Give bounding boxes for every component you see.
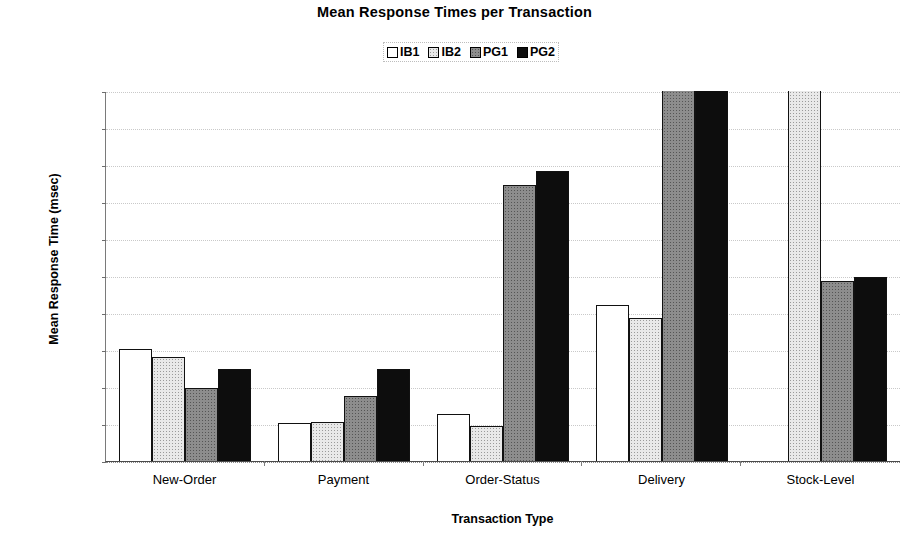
- bar-pg1[interactable]: [662, 91, 695, 461]
- bar-group: [106, 92, 265, 461]
- legend-swatch-icon: [428, 47, 439, 58]
- y-axis-tick-mark: [102, 462, 106, 463]
- x-axis-category-label: Stock-Level: [741, 472, 900, 487]
- bar-pg1[interactable]: [503, 185, 536, 461]
- x-axis-category-labels: New-OrderPaymentOrder-StatusDeliveryStoc…: [105, 472, 900, 487]
- bar-ib2[interactable]: [470, 426, 503, 461]
- legend-entry-ib1[interactable]: IB1: [387, 46, 419, 59]
- x-axis-tick-mark: [581, 461, 582, 466]
- bar-ib2[interactable]: [629, 318, 662, 461]
- bar-pg2[interactable]: [377, 369, 410, 461]
- legend-swatch-icon: [517, 47, 528, 58]
- chart-legend: IB1IB2PG1PG2: [383, 42, 559, 62]
- bar-pg2[interactable]: [218, 369, 251, 462]
- bar-ib2[interactable]: [311, 422, 344, 461]
- legend-entry-pg2[interactable]: PG2: [517, 46, 555, 59]
- x-axis-tick-mark: [264, 461, 265, 466]
- legend-label: PG1: [483, 46, 508, 59]
- plot-area: 10009008007006005004003002001000: [105, 92, 900, 462]
- bar-group: [424, 92, 583, 461]
- legend-entry-pg1[interactable]: PG1: [470, 46, 508, 59]
- y-axis-title: Mean Response Time (msec): [47, 109, 61, 409]
- bar-ib2[interactable]: [788, 91, 821, 461]
- bar-group: [741, 92, 900, 461]
- x-axis-tick-mark: [740, 461, 741, 466]
- bar-pg1[interactable]: [185, 388, 218, 461]
- bar-ib1[interactable]: [278, 423, 311, 461]
- x-axis-category-label: New-Order: [105, 472, 264, 487]
- bar-pg2[interactable]: [695, 91, 728, 461]
- legend-swatch-icon: [387, 47, 398, 58]
- bar-pg1[interactable]: [821, 281, 854, 461]
- legend-label: IB2: [441, 46, 460, 59]
- legend-swatch-icon: [470, 47, 481, 58]
- chart-title: Mean Response Times per Transaction: [0, 4, 909, 20]
- x-axis-category-label: Order-Status: [423, 472, 582, 487]
- gridline: [106, 462, 900, 463]
- bar-group: [582, 92, 741, 461]
- bar-pg1[interactable]: [344, 396, 377, 461]
- bar-ib1[interactable]: [596, 305, 629, 461]
- bar-ib1[interactable]: [119, 349, 152, 461]
- bar-ib1[interactable]: [437, 414, 470, 461]
- x-axis-category-label: Delivery: [582, 472, 741, 487]
- x-axis-tick-mark: [423, 461, 424, 466]
- bar-pg2[interactable]: [536, 171, 569, 461]
- bar-ib2[interactable]: [152, 357, 185, 461]
- legend-entry-ib2[interactable]: IB2: [428, 46, 460, 59]
- chart-container: Mean Response Times per Transaction IB1I…: [0, 0, 909, 555]
- bar-groups: [106, 92, 900, 461]
- bar-group: [265, 92, 424, 461]
- x-axis-category-label: Payment: [264, 472, 423, 487]
- bar-pg2[interactable]: [854, 277, 887, 461]
- legend-label: IB1: [400, 46, 419, 59]
- x-axis-title: Transaction Type: [105, 512, 900, 526]
- legend-label: PG2: [530, 46, 555, 59]
